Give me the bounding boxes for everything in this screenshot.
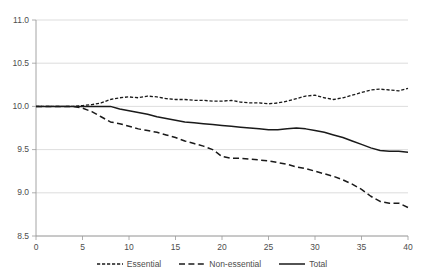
x-axis-tick-label: 10 (114, 243, 144, 252)
x-axis-tick-label: 25 (254, 243, 284, 252)
x-axis-tick-label: 5 (68, 243, 98, 252)
series-line-non-essential (36, 106, 408, 207)
series-line-total (36, 106, 408, 152)
chart-legend: EssentialNon-essentialTotal (0, 256, 424, 272)
x-axis-tick-label: 15 (161, 243, 191, 252)
legend-label: Total (309, 260, 327, 269)
legend-swatch-icon (279, 260, 305, 268)
series-line-essential (36, 88, 408, 106)
legend-item-total[interactable]: Total (279, 260, 327, 269)
x-axis-tick-label: 40 (393, 243, 423, 252)
y-axis-tick-label: 10.0 (0, 102, 29, 111)
x-axis-tick-label: 30 (300, 243, 330, 252)
legend-swatch-icon (97, 260, 123, 268)
legend-label: Non-essential (209, 260, 261, 269)
x-axis-tick-label: 35 (347, 243, 377, 252)
legend-swatch-icon (179, 260, 205, 268)
line-chart: 8.59.09.510.010.511.00510152025303540 Es… (0, 0, 424, 278)
legend-item-essential[interactable]: Essential (97, 260, 162, 269)
plot-area (0, 0, 424, 278)
y-axis-tick-label: 9.0 (0, 188, 29, 197)
y-axis-tick-label: 9.5 (0, 145, 29, 154)
y-axis-tick-label: 8.5 (0, 232, 29, 241)
x-axis-tick-label: 0 (21, 243, 51, 252)
legend-item-non-essential[interactable]: Non-essential (179, 260, 261, 269)
y-axis-tick-label: 10.5 (0, 59, 29, 68)
legend-label: Essential (127, 260, 162, 269)
y-axis-tick-label: 11.0 (0, 16, 29, 25)
x-axis-tick-label: 20 (207, 243, 237, 252)
